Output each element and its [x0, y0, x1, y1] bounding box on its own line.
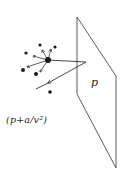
- neighbour-molecule: [34, 72, 38, 76]
- molecule-trajectory: [36, 60, 86, 89]
- central-molecule: [45, 57, 51, 63]
- rebound-path: [36, 83, 48, 89]
- attraction-arrow-icon: [27, 60, 48, 67]
- neighbour-molecule: [21, 68, 25, 72]
- diagram-canvas: [0, 0, 132, 184]
- neighbour-molecule: [53, 45, 56, 48]
- neighbour-molecule: [24, 51, 27, 54]
- pressure-label: p: [91, 77, 98, 88]
- wall-outline: [77, 17, 116, 168]
- neighbour-molecule: [38, 43, 41, 46]
- wall-plane: [77, 17, 116, 168]
- neighbour-molecule: [48, 90, 52, 94]
- rebound-arrow: [48, 62, 86, 83]
- corrected-pressure-equation: (p+a/v²): [6, 115, 47, 125]
- incoming-path: [48, 60, 86, 62]
- gas-molecules: [21, 43, 57, 93]
